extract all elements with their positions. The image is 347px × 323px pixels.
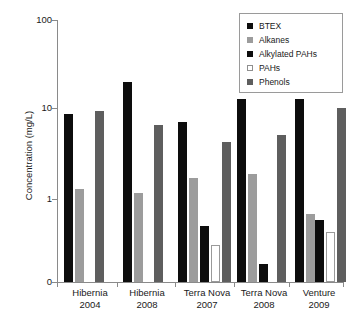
y-axis-label: 10 (0, 103, 52, 112)
bar-phenols-terra-nova-2008 (277, 135, 286, 282)
bar-alkylated-pahs-terra-nova-2008 (259, 264, 268, 282)
bar-alkanes-terra-nova-2008 (248, 174, 257, 282)
x-axis-label-site: Venture (303, 287, 336, 298)
bar-btex-venture-2009 (295, 99, 304, 282)
bar-alkanes-hibernia-2008 (134, 193, 143, 282)
x-axis-label-year: 2007 (175, 299, 239, 311)
legend-label: BTEX (259, 21, 281, 31)
y-axis-label: 100 (0, 15, 52, 24)
legend-swatch-phenols-icon (247, 79, 253, 85)
bar-alkanes-venture-2009 (306, 214, 315, 282)
x-axis-label-year: 2009 (287, 299, 347, 311)
x-axis-line (57, 282, 343, 283)
bar-btex-terra-nova-2008 (237, 99, 246, 282)
legend-swatch-btex-icon (247, 23, 253, 29)
bar-btex-hibernia-2008 (123, 82, 132, 282)
chart-legend: BTEXAlkanesAlkylated PAHsPAHsPhenols (239, 13, 343, 93)
bar-alkylated-pahs-venture-2009 (315, 220, 324, 282)
y-axis-label: 0 (0, 277, 52, 286)
y-axis-label: 1 (0, 194, 52, 203)
x-axis-label-site: Terra Nova (241, 287, 287, 298)
x-axis-group-label: Hibernia2008 (115, 287, 179, 310)
legend-item: Alkylated PAHs (247, 47, 342, 61)
bar-alkylated-pahs-terra-nova-2007 (200, 226, 209, 282)
bar-phenols-hibernia-2008 (154, 125, 163, 282)
legend-swatch-alkylated-pahs-icon (247, 51, 253, 57)
legend-swatch-pahs-icon (247, 65, 253, 71)
bar-phenols-venture-2009 (337, 108, 346, 282)
x-axis-label-site: Hibernia (129, 287, 164, 298)
legend-swatch-alkanes-icon (247, 37, 253, 43)
legend-item: BTEX (247, 19, 342, 33)
legend-label: PAHs (259, 63, 280, 73)
bar-phenols-terra-nova-2007 (222, 142, 231, 282)
bar-chart: Concentration (mg/L) 1001010 Hibernia200… (0, 0, 347, 323)
legend-label: Alkylated PAHs (259, 49, 317, 59)
legend-label: Alkanes (259, 35, 289, 45)
bar-alkanes-terra-nova-2007 (189, 178, 198, 282)
x-axis-label-site: Terra Nova (184, 287, 230, 298)
bar-btex-terra-nova-2007 (178, 122, 187, 282)
bar-alkanes-hibernia-2004 (75, 189, 84, 282)
legend-item: Alkanes (247, 33, 342, 47)
x-axis-label-site: Hibernia (72, 287, 107, 298)
x-axis-label-year: 2008 (115, 299, 179, 311)
bar-pahs-venture-2009 (326, 232, 335, 282)
bar-phenols-hibernia-2004 (95, 111, 104, 282)
legend-label: Phenols (259, 77, 290, 87)
bar-pahs-terra-nova-2007 (211, 245, 220, 282)
legend-item: PAHs (247, 61, 342, 75)
x-axis-group-label: Hibernia2004 (58, 287, 122, 310)
x-axis-label-year: 2004 (58, 299, 122, 311)
legend-item: Phenols (247, 75, 342, 89)
bar-btex-hibernia-2004 (64, 114, 73, 282)
x-axis-group-label: Venture2009 (287, 287, 347, 310)
x-axis-group-label: Terra Nova2007 (175, 287, 239, 310)
